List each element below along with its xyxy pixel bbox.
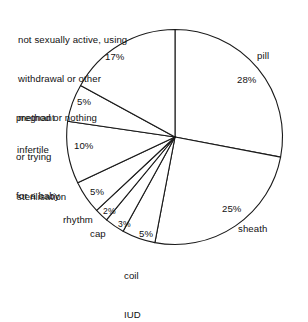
label-pill: pill <box>257 49 269 62</box>
value-pill: 28% <box>237 74 257 85</box>
label-sheath: sheath <box>238 222 267 235</box>
value-rhythm: 2% <box>103 206 116 217</box>
label-coil-iud-line1: coil <box>124 269 141 282</box>
value-not-sexually-active: 17% <box>105 51 125 62</box>
label-coil-iud-line2: IUD <box>124 308 141 321</box>
label-cap: cap <box>90 227 106 240</box>
value-pregnant: 5% <box>77 96 91 107</box>
label-pregnant: pregnant or trying for a baby <box>16 85 60 228</box>
label-rhythm: rhythm <box>63 213 93 226</box>
label-sterilisation: sterilisation <box>17 190 66 203</box>
label-pregnant-line1: pregnant <box>16 111 60 124</box>
value-coil-iud: 5% <box>139 228 153 239</box>
label-infertile: infertile <box>17 143 49 156</box>
label-not-sexually-active-line2: withdrawal or other <box>18 72 127 85</box>
value-sheath: 25% <box>222 203 242 214</box>
value-cap: 3% <box>118 219 131 230</box>
label-coil-iud: coil IUD <box>124 243 141 322</box>
value-infertile: 10% <box>74 140 94 151</box>
value-sterilisation: 5% <box>90 186 104 197</box>
label-not-sexually-active-line1: not sexually active, using <box>18 33 127 46</box>
